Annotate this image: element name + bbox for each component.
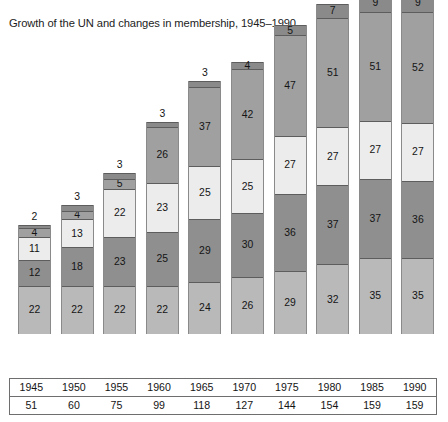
bar-segment: 29 [189,220,220,282]
bar-segment-label: 36 [284,228,296,238]
bar-1990: 353627529 [401,0,434,334]
bar-segment-label: 4 [245,61,251,71]
bar-segment-label: 3 [104,160,135,170]
bar-segment-label: 5 [117,179,123,189]
bar-segment: 52 [402,13,433,124]
bar-segment-label: 13 [71,229,83,239]
bar-1975: 293627475 [274,25,307,334]
bar-segment: 26 [232,278,263,334]
bar-segment-label: 11 [29,244,40,254]
bar-segment: 42 [232,70,263,160]
bar-segment: 2 [19,225,50,229]
bar-segment: 9 [402,0,433,13]
bar-segment-label: 25 [157,254,169,264]
bar-segment-label: 22 [29,305,41,315]
bar-segment-label: 25 [242,182,254,192]
bar-segment: 23 [147,184,178,233]
bar-segment-label: 2 [19,212,50,222]
bar-segment-label: 12 [29,268,41,278]
bar-segment: 35 [360,259,391,334]
bar-segment: 25 [147,233,178,287]
bar-segment: 37 [360,180,391,259]
bar-segment-label: 32 [327,295,339,305]
bar-segment-label: 7 [330,6,336,16]
table-cell-year: 1965 [180,379,223,397]
bar-segment-label: 3 [147,109,178,119]
table-cell-total: 159 [393,397,436,415]
bar-segment-label: 9 [372,0,378,8]
bar-1960: 222523263 [146,122,179,334]
chart-root: Growth of the UN and changes in membersh… [0,0,448,422]
bar-1950: 22181343 [61,205,94,334]
bar-segment: 5 [275,25,306,36]
bar-segment: 4 [232,62,263,71]
table-cell-year: 1985 [351,379,394,397]
bar-1965: 242925373 [188,81,221,334]
bar-segment: 22 [147,287,178,334]
table-row-years: 1945195019551960196519701975198019851990 [10,379,436,397]
bar-segment: 3 [62,205,93,211]
table-cell-total: 144 [266,397,309,415]
table-cell-total: 159 [351,397,394,415]
bar-segment: 36 [402,182,433,259]
bar-1955: 22232253 [103,173,136,334]
table-cell-year: 1990 [393,379,436,397]
bar-segment-label: 22 [114,305,126,315]
bar-segment: 26 [147,128,178,184]
bar-segment: 27 [402,124,433,182]
bar-segment-label: 22 [157,305,169,315]
bar-segment: 22 [104,287,135,334]
bar-segment: 4 [19,229,50,238]
table-cell-year: 1970 [223,379,266,397]
bar-segment-label: 26 [157,150,169,160]
bar-segment-label: 47 [284,81,296,91]
bar-segment-label: 35 [412,291,424,301]
bar-segment: 47 [275,36,306,137]
bar-segment-label: 9 [415,0,421,8]
bar-segment-label: 24 [199,303,211,313]
table-cell-total: 127 [223,397,266,415]
table-row-totals: 51607599118127144154159159 [10,397,436,415]
bar-segment-label: 29 [284,298,296,308]
bar-segment: 36 [275,195,306,272]
bar-segment: 11 [19,238,50,262]
bar-segment-label: 51 [327,68,339,78]
bar-segment: 35 [402,259,433,334]
table-cell-year: 1950 [53,379,96,397]
bar-segment: 24 [189,283,220,334]
bar-segment: 3 [104,173,135,179]
bar-segment: 27 [360,122,391,180]
bar-segment-label: 51 [370,62,382,72]
bar-segment-label: 27 [284,160,296,170]
bar-segment-label: 29 [199,246,211,256]
table-cell-total: 75 [95,397,138,415]
bar-segment-label: 22 [71,305,83,315]
bar-segment-label: 3 [62,192,93,202]
bar-segment: 5 [104,180,135,191]
bar-segment: 37 [189,88,220,167]
bar-segment-label: 35 [370,291,382,301]
table-cell-year: 1955 [95,379,138,397]
bar-segment: 51 [317,19,348,128]
bar-segment-label: 27 [370,145,382,155]
bar-segment: 51 [360,13,391,122]
bar-segment-label: 23 [157,203,169,213]
bar-segment: 3 [147,122,178,128]
bar-segment-label: 36 [412,215,424,225]
bar-segment: 4 [62,212,93,221]
table-cell-total: 60 [53,397,96,415]
table-cell-total: 118 [180,397,223,415]
table-cell-year: 1945 [10,379,53,397]
bar-segment-label: 18 [71,262,83,272]
bar-segment-label: 27 [412,147,424,157]
bar-segment-label: 30 [242,240,254,250]
bar-segment-label: 25 [199,188,211,198]
bar-segment-label: 42 [242,110,254,120]
plot-area: 2212114222181343222322532225232632429253… [0,0,448,378]
table-cell-total: 51 [10,397,53,415]
bar-segment: 22 [104,190,135,237]
bar-segment: 9 [360,0,391,13]
bar-segment: 22 [19,287,50,334]
bar-segment-label: 37 [370,214,382,224]
bar-segment: 18 [62,248,93,287]
